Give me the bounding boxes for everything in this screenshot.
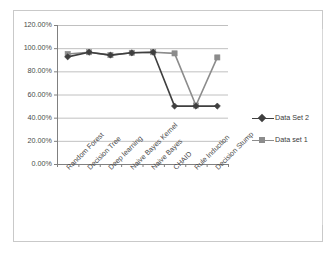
square-marker-icon (252, 135, 274, 145)
legend-label-data-set-1: Data set 1 (275, 136, 308, 143)
data-point-marker (172, 51, 177, 56)
y-axis-tick-label: 120.00% (8, 21, 52, 28)
y-axis-tick-label: 40.00% (8, 114, 52, 121)
legend-divider (322, 29, 323, 225)
plot-area (57, 25, 228, 164)
y-axis-tick-label: 80.00% (8, 67, 52, 74)
chart-legend: Data Set 2 Data set 1 (252, 111, 324, 155)
legend-label-data-set-2: Data Set 2 (275, 114, 309, 121)
legend-item-data-set-1[interactable]: Data set 1 (252, 133, 308, 147)
y-axis: 0.00%20.00%40.00%60.00%80.00%100.00%120.… (8, 25, 52, 164)
y-axis-tick-label: 100.00% (8, 44, 52, 51)
chart-frame: 0.00%20.00%40.00%60.00%80.00%100.00%120.… (13, 10, 323, 242)
data-point-marker (171, 103, 177, 109)
data-point-marker (214, 103, 220, 109)
y-axis-tick-label: 60.00% (8, 91, 52, 98)
data-point-marker (215, 55, 220, 60)
y-axis-tick-label: 20.00% (8, 137, 52, 144)
series-line (68, 52, 218, 106)
y-axis-tick-label: 0.00% (8, 160, 52, 167)
x-axis: Random ForestDecision TreeDeep learningN… (57, 166, 237, 241)
chart-plot-svg (57, 25, 228, 164)
series-line (68, 52, 218, 105)
diamond-marker-icon (252, 113, 274, 123)
legend-item-data-set-2[interactable]: Data Set 2 (252, 111, 309, 125)
